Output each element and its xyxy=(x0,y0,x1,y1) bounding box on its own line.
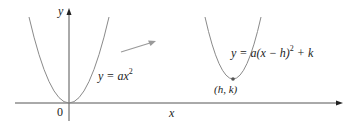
base-parabola-equation: y = ax2 xyxy=(98,70,133,82)
vertex-label: (h, k) xyxy=(214,84,237,95)
y-axis-label: y xyxy=(58,5,63,17)
x-axis-label: x xyxy=(169,107,174,119)
shifted-parabola-equation: y = a(x − h)2 + k xyxy=(231,47,313,59)
y-axis-arrowhead-icon xyxy=(67,8,72,15)
equation-text: y = a(x − h) xyxy=(231,46,290,60)
vertex-point xyxy=(231,77,235,81)
diagram-canvas xyxy=(0,0,361,124)
equation-text: y = ax xyxy=(98,69,129,83)
exponent: 2 xyxy=(290,44,294,53)
equation-tail: + k xyxy=(294,46,313,60)
exponent: 2 xyxy=(129,67,133,76)
origin-label: 0 xyxy=(57,106,63,118)
x-axis-arrowhead-icon xyxy=(336,101,343,106)
translation-arrow xyxy=(121,43,150,52)
